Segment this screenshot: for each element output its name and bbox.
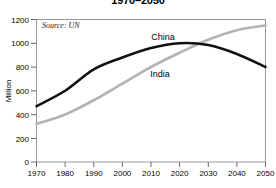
x-axis-tick-labels: 1970 1980 1990 2000 2010 2020 2030 2040 …: [28, 169, 275, 178]
y-tick-label: 0: [25, 158, 30, 167]
y-tick-label: 600: [16, 87, 30, 96]
x-tick-label: 1970: [28, 169, 46, 178]
y-axis-ticks: [31, 20, 37, 163]
x-tick-label: 1980: [56, 169, 74, 178]
y-tick-label: 200: [16, 135, 30, 144]
x-tick-label: 2030: [199, 169, 217, 178]
x-tick-label: 2020: [171, 169, 189, 178]
chart-page: 1970–2050 1200 1000 800 600 400 200 0 Mi…: [0, 0, 276, 188]
x-tick-label: 2000: [114, 169, 132, 178]
x-tick-label: 1990: [85, 169, 103, 178]
y-axis-title: Million: [4, 80, 13, 103]
x-tick-label: 2040: [228, 169, 246, 178]
population-line-chart: 1200 1000 800 600 400 200 0 Million 1970…: [0, 0, 276, 188]
y-tick-label: 1000: [11, 39, 29, 48]
series-label-india: India: [150, 69, 170, 79]
series-label-china: China: [151, 32, 175, 42]
source-note: Source: UN: [42, 21, 80, 30]
x-tick-label: 2050: [257, 169, 275, 178]
y-tick-label: 800: [16, 63, 30, 72]
y-tick-label: 1200: [11, 16, 29, 25]
x-tick-label: 2010: [142, 169, 160, 178]
x-axis-ticks: [37, 162, 266, 167]
y-tick-label: 400: [16, 111, 30, 120]
y-axis-tick-labels: 1200 1000 800 600 400 200 0: [11, 16, 29, 168]
